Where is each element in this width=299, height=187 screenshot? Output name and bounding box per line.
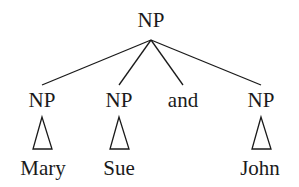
leaf-john: John: [240, 156, 280, 180]
triangle-icon: [110, 117, 129, 149]
syntax-tree: NP NP NP and NP Mary Sue John: [0, 0, 299, 187]
triangles: [33, 117, 271, 149]
child-node-label-1: NP: [29, 88, 56, 112]
conjunction-label: and: [168, 88, 199, 112]
root-node-label: NP: [138, 8, 165, 32]
leaf-sue: Sue: [103, 156, 135, 180]
leaf-mary: Mary: [20, 156, 66, 180]
child-node-label-2: NP: [106, 88, 133, 112]
child-node-label-3: NP: [248, 88, 275, 112]
tree-edges: [42, 40, 261, 85]
triangle-icon: [33, 117, 52, 149]
triangle-icon: [252, 117, 271, 149]
